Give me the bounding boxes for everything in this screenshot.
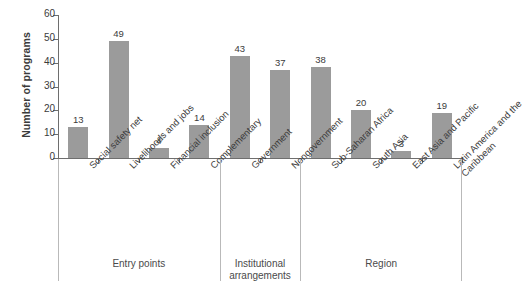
bar-value-label: 19 [437,100,448,111]
group-label: Institutional arrangements [220,258,301,282]
y-tick-label: 30 [44,80,55,91]
y-tick-label: 60 [44,8,55,19]
bar-value-label: 43 [235,43,246,54]
bar-value-label: 38 [315,54,326,65]
y-tick-label: 0 [49,151,55,162]
bar-value-label: 14 [194,112,205,123]
y-tick-label: 40 [44,56,55,67]
y-axis-title: Number of programs [20,10,32,160]
group-label: Region [300,258,462,270]
y-tick-label: 50 [44,32,55,43]
bar: 13 [68,127,88,158]
y-axis-line [58,15,59,159]
bar-value-label: 20 [356,97,367,108]
y-tick-label: 10 [44,127,55,138]
bar-value-label: 13 [73,114,84,125]
y-tick-label: 20 [44,103,55,114]
bar-value-label: 49 [113,28,124,39]
group-label: Entry points [58,258,220,270]
bar-value-label: 37 [275,57,286,68]
